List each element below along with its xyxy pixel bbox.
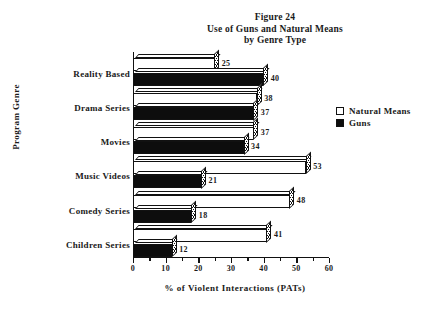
bar-end-cap xyxy=(306,152,311,174)
bar-top-face xyxy=(135,68,269,72)
x-axis-tick-label: 30 xyxy=(216,264,246,273)
x-axis-tick-label: 50 xyxy=(281,264,311,273)
bar-top-face xyxy=(135,122,259,126)
bar-guns: 34 xyxy=(133,141,244,154)
legend-swatch-natural-means-icon xyxy=(336,107,344,115)
bar-top-face xyxy=(135,239,178,243)
x-axis-tick xyxy=(166,258,167,263)
plot-area: 0102030405060254038373734532148184112 xyxy=(133,52,329,257)
x-axis-tick-label: 60 xyxy=(314,264,344,273)
bar-top-face xyxy=(135,156,312,160)
bar-value-label: 25 xyxy=(222,59,231,68)
bar-top-face xyxy=(135,103,259,107)
y-axis-category-label: Comedy Series xyxy=(10,206,130,216)
y-axis-category-label: Reality Based xyxy=(10,69,130,79)
x-axis-tick-label: 20 xyxy=(183,264,213,273)
bar-end-cap xyxy=(266,221,271,243)
bar-front-face xyxy=(133,210,192,223)
y-axis-category-label: Music Videos xyxy=(10,171,130,181)
bar-value-label: 12 xyxy=(179,245,188,254)
bar-guns: 12 xyxy=(133,244,172,257)
x-axis-tick xyxy=(313,258,314,261)
bar-top-face xyxy=(135,171,207,175)
bar-guns: 37 xyxy=(133,107,254,120)
x-axis-tick-label: 0 xyxy=(118,264,148,273)
bar-top-face xyxy=(135,225,273,229)
x-axis-tick-label: 10 xyxy=(151,264,181,273)
bar-front-face xyxy=(133,244,172,257)
bar-front-face xyxy=(133,141,244,154)
bar-end-cap xyxy=(201,167,206,189)
chart-title-line-3: by Genre Type xyxy=(150,35,400,47)
x-axis-tick xyxy=(215,258,216,261)
x-axis-tick xyxy=(280,258,281,261)
y-axis-category-labels: Reality BasedDrama SeriesMoviesMusic Vid… xyxy=(5,52,130,257)
x-axis-tick xyxy=(198,258,199,263)
bar-top-face xyxy=(135,54,220,58)
x-axis-tick xyxy=(296,258,297,263)
bar-top-face xyxy=(135,137,250,141)
x-axis-tick xyxy=(133,258,134,263)
x-axis-tick xyxy=(264,258,265,263)
y-axis-category-label: Children Series xyxy=(10,240,130,250)
bar-end-cap xyxy=(244,133,249,155)
bar-end-cap xyxy=(172,235,177,257)
bar-end-cap xyxy=(191,201,196,223)
x-axis-tick xyxy=(149,258,150,261)
x-axis-title: % of Violent Interactions (PATs) xyxy=(90,283,380,293)
bar-top-face xyxy=(135,205,197,209)
chart-title-line-1: Figure 24 xyxy=(150,12,400,24)
bar-value-label: 48 xyxy=(297,196,306,205)
bar-value-label: 53 xyxy=(313,162,322,171)
x-axis-tick xyxy=(182,258,183,261)
bar-front-face xyxy=(133,175,202,188)
legend-swatch-guns-icon xyxy=(336,119,344,127)
figure-24-chart: Figure 24 Use of Guns and Natural Means … xyxy=(0,0,427,318)
bar-value-label: 34 xyxy=(251,142,260,151)
bar-value-label: 40 xyxy=(271,74,280,83)
bar-front-face xyxy=(133,73,264,86)
bar-value-label: 38 xyxy=(264,94,273,103)
bar-front-face xyxy=(133,107,254,120)
x-axis-tick xyxy=(231,258,232,263)
legend-item-guns: Guns xyxy=(336,117,411,129)
x-axis-tick-label: 40 xyxy=(249,264,279,273)
bar-end-cap xyxy=(253,118,258,140)
bar-guns: 21 xyxy=(133,175,202,188)
bar-top-face xyxy=(135,191,295,195)
bar-value-label: 18 xyxy=(199,211,208,220)
y-axis-category-label: Drama Series xyxy=(10,103,130,113)
bar-value-label: 37 xyxy=(261,128,270,137)
bar-guns: 40 xyxy=(133,73,264,86)
legend-label-guns: Guns xyxy=(349,118,371,128)
chart-legend: Natural Means Guns xyxy=(336,105,411,129)
bar-value-label: 21 xyxy=(209,176,218,185)
x-axis-tick xyxy=(329,258,330,263)
bar-top-face xyxy=(135,88,263,92)
chart-title: Figure 24 Use of Guns and Natural Means … xyxy=(150,12,400,47)
bar-value-label: 37 xyxy=(261,108,270,117)
legend-label-natural-means: Natural Means xyxy=(349,106,411,116)
y-axis-category-label: Movies xyxy=(10,137,130,147)
chart-title-line-2: Use of Guns and Natural Means xyxy=(150,24,400,36)
bar-value-label: 41 xyxy=(274,230,283,239)
bar-guns: 18 xyxy=(133,210,192,223)
bar-end-cap xyxy=(289,186,294,208)
bar-end-cap xyxy=(263,64,268,86)
x-axis-tick xyxy=(247,258,248,261)
legend-item-natural-means: Natural Means xyxy=(336,105,411,117)
